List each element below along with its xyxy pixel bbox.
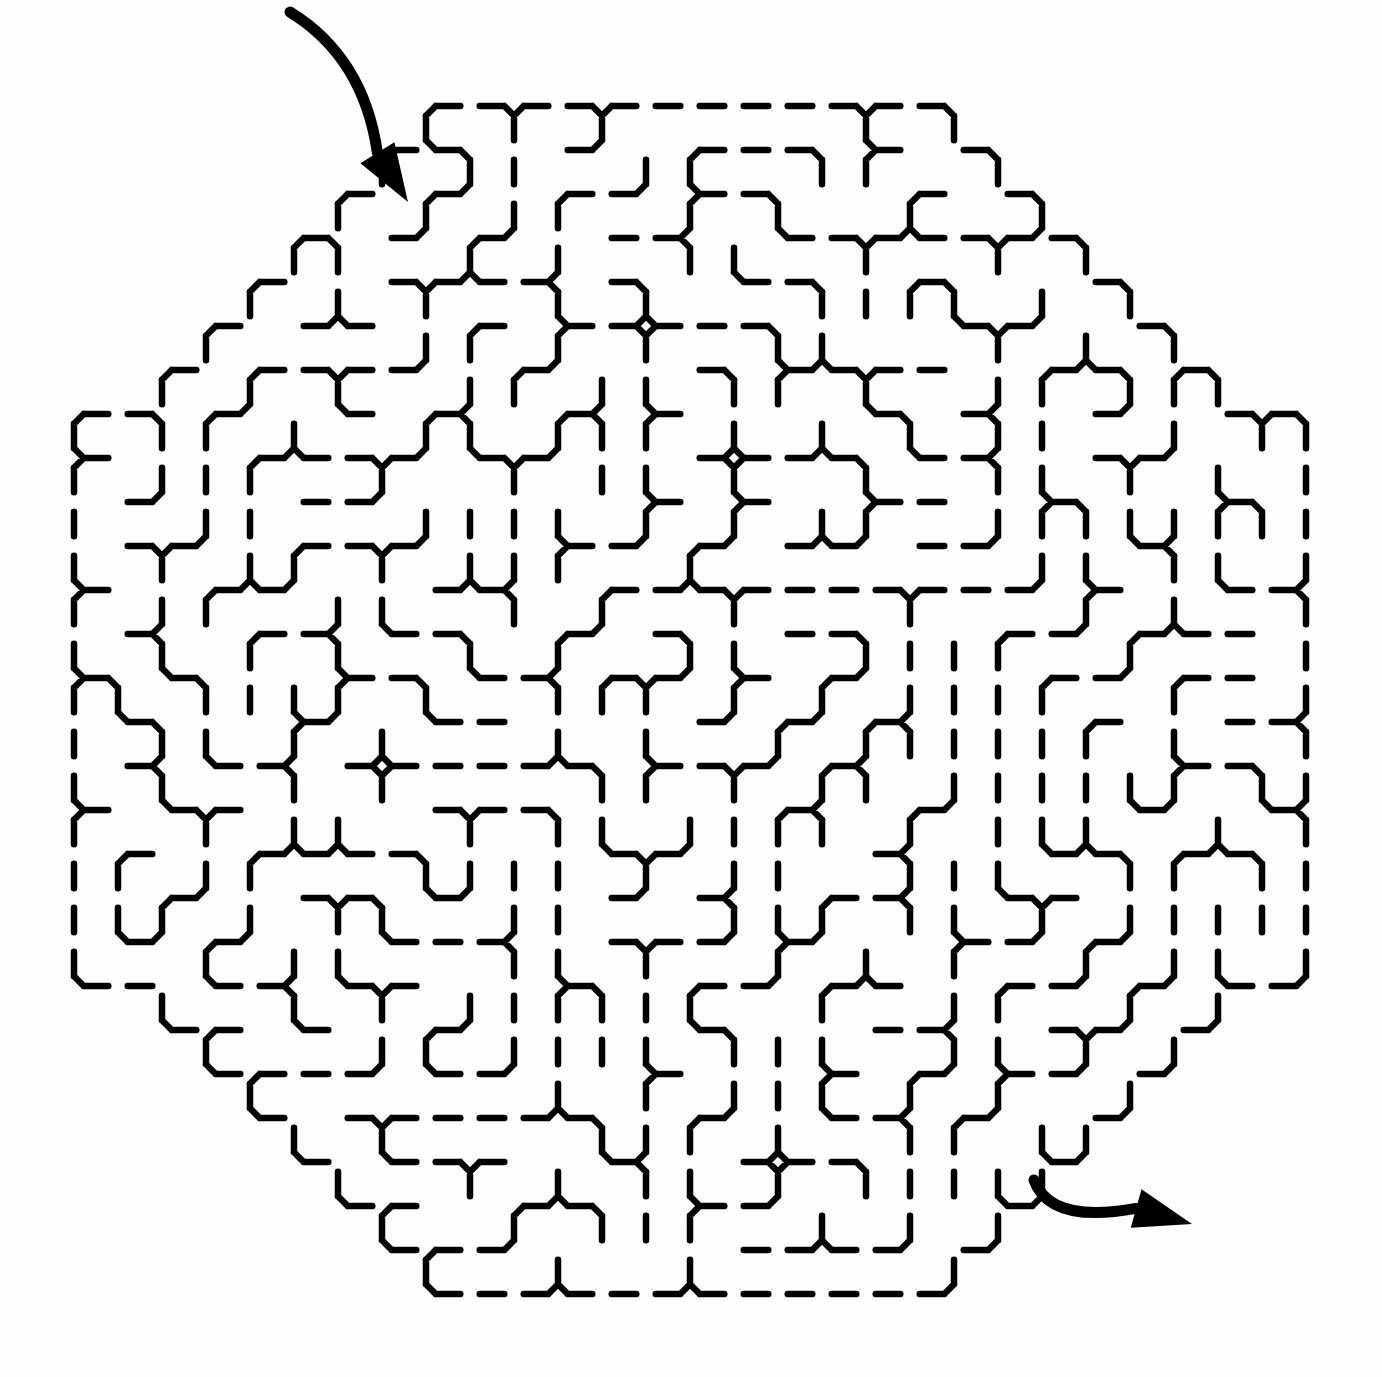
entry-arrow-icon <box>290 12 408 202</box>
maze-canvas: Octagonal maze puzzle <box>0 0 1382 1377</box>
exit-arrow-icon <box>1034 1180 1192 1228</box>
maze-wall-paths <box>74 106 1306 1294</box>
maze-walls <box>74 106 1306 1294</box>
maze-drawing <box>0 0 1382 1377</box>
